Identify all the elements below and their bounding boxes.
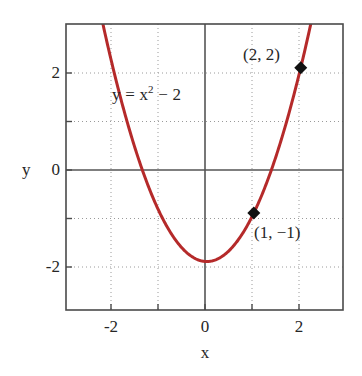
y-tick-label-2: 2 <box>26 64 60 81</box>
chart-figure: 2 0 -2 y -2 0 2 x y = x2 − 2 (2, 2) (1, … <box>0 0 362 376</box>
x-tick-label-neg2: -2 <box>91 318 131 335</box>
y-axis-title: y <box>22 161 31 178</box>
equation-prefix: y = x <box>112 85 148 104</box>
x-tick-label-2: 2 <box>279 318 319 335</box>
equation-annotation: y = x2 − 2 <box>112 86 181 103</box>
point-label-2-2: (2, 2) <box>243 46 280 63</box>
equation-suffix: − 2 <box>154 85 181 104</box>
x-axis-title: x <box>185 344 225 361</box>
x-tick-label-0: 0 <box>185 318 225 335</box>
point-label-1-neg1: (1, −1) <box>254 224 300 241</box>
y-tick-label-neg2: -2 <box>26 258 60 275</box>
y-tick-label-0: 0 <box>26 161 60 178</box>
